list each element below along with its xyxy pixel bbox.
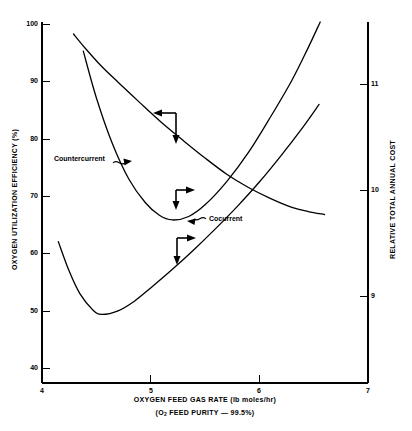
annotation-right-down-middle	[173, 187, 196, 211]
curve-label-cocurrent: Cocurrent	[209, 215, 242, 222]
tick-label-left-50: 50	[16, 307, 38, 314]
tick-label-right-9: 9	[371, 292, 393, 299]
tick-label-bottom-6: 6	[249, 387, 269, 394]
annotation-arrow-down-head	[173, 201, 180, 210]
axis-left-ticks	[42, 25, 50, 369]
curve-label-countercurrent: Countercurrent	[54, 155, 105, 162]
leader-countercurrent	[113, 161, 125, 164]
tick-label-bottom-7: 7	[358, 387, 378, 394]
tick-label-right-11: 11	[371, 80, 393, 87]
x-axis-subtitle-suffix: FEED PURITY — 99.5%)	[167, 409, 254, 416]
curve-countercurrent-efficiency	[74, 34, 325, 215]
y-axis-right-title: RELATIVE TOTAL ANNUAL COST	[389, 120, 396, 280]
leader-cocurrent	[194, 217, 206, 220]
tick-label-bottom-5: 5	[141, 387, 161, 394]
axis-frame	[42, 22, 368, 383]
axis-bottom-ticks	[151, 375, 260, 383]
annotation-arrow-right-head	[187, 235, 196, 242]
tick-label-left-40: 40	[16, 364, 38, 371]
chart-plot-area	[0, 0, 412, 431]
y-axis-left-title: OXYGEN UTILIZATION EFFICIENCY (%)	[11, 120, 18, 280]
curve-cocurrent-efficiency	[58, 104, 319, 314]
tick-label-left-90: 90	[16, 77, 38, 84]
axis-right-ticks	[360, 85, 368, 297]
tick-label-left-70: 70	[16, 192, 38, 199]
curve-countercurrent-cost	[83, 22, 320, 220]
data-curves	[58, 22, 324, 314]
tick-label-bottom-4: 4	[32, 387, 52, 394]
x-axis-subtitle: (O2 FEED PURITY — 99.5%)	[42, 409, 368, 417]
tick-label-left-60: 60	[16, 249, 38, 256]
annotation-arrow-down-head	[173, 135, 180, 144]
leader-cocurrent-head	[187, 219, 196, 226]
annotation-arrow-right-head	[186, 187, 195, 194]
tick-label-left-100: 100	[16, 20, 38, 27]
leader-countercurrent-head	[124, 159, 133, 166]
x-axis-title: OXYGEN FEED GAS RATE (lb moles/hr)	[42, 396, 368, 403]
annotation-right-down-bottom	[174, 235, 197, 266]
chart-figure: 100 90 80 70 60 50 40 11 10 9 4 5 6 7 OX…	[0, 0, 412, 431]
tick-label-left-80: 80	[16, 135, 38, 142]
x-axis-subtitle-prefix: (O	[156, 409, 164, 416]
